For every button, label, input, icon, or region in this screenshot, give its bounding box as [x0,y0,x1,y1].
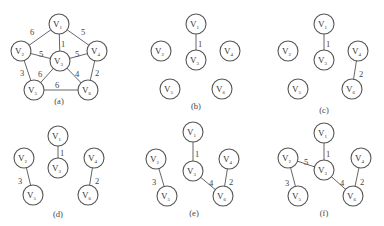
node-v2: V2 [151,41,171,61]
kruskal-mst-figure: 6515536426V1V2V3V4V5V6(a)1V1V2V3V4V5V6(b… [0,0,384,226]
edge-weight-label: 6 [55,80,59,90]
edge-weight-label: 5 [304,157,308,167]
edge-weight-label: 4 [340,178,345,188]
edge-weight-label: 1 [326,149,330,159]
node-v2: V2 [278,41,298,61]
node-v6: V6 [342,79,362,99]
node-v6: V6 [78,80,98,100]
edge-weight-label: 3 [285,178,289,188]
node-v3: V3 [50,51,70,71]
edge-weight-label: 1 [326,39,330,49]
node-v6: V6 [78,185,98,205]
panel-d: 132V1V2V3V4V5V6(d) [14,126,104,219]
panel-caption: (d) [53,209,63,219]
node-v5: V5 [288,79,308,99]
edge-weight-label: 5 [75,49,79,59]
edge-weight-label: 3 [152,177,156,187]
edge-weight-label: 4 [75,69,80,79]
node-v3: V3 [314,50,334,70]
panel-caption: (c) [319,105,329,115]
edge-weight-label: 6 [30,27,34,37]
node-v4: V4 [348,41,368,61]
node-v3: V3 [183,161,203,181]
edge-weight-label: 1 [195,149,199,159]
panel-caption: (e) [189,208,199,218]
node-v4: V4 [220,41,240,61]
panel-caption: (b) [191,101,201,111]
node-v4: V4 [87,41,107,61]
node-v2: V2 [146,149,166,169]
edge-weight-label: 2 [360,177,364,187]
node-v1: V1 [48,126,68,146]
edge-weight-label: 1 [60,148,64,158]
node-v5: V5 [24,80,44,100]
panel-caption: (a) [54,96,64,106]
node-v1: V1 [314,14,334,34]
panel-caption: (f) [320,208,329,218]
edge-weight-label: 2 [95,176,99,186]
node-v3: V3 [186,50,206,70]
node-v6: V6 [212,79,232,99]
edge-weight-label: 3 [20,68,24,78]
panel-a: 6515536426V1V2V3V4V5V6(a) [11,14,107,106]
edge-weight-label: 4 [209,178,214,188]
edge-weight-label: 2 [95,68,99,78]
node-v6: V6 [343,186,363,206]
node-v1: V1 [49,14,69,34]
panel-b: 1V1V2V3V4V5V6(b) [151,14,240,111]
edge-weight-label: 5 [39,49,43,59]
node-v4: V4 [351,148,371,168]
node-v2: V2 [14,148,34,168]
node-v1: V1 [314,123,334,143]
node-v4: V4 [219,149,239,169]
node-v5: V5 [160,79,180,99]
edge-weight-label: 1 [61,39,65,49]
node-v1: V1 [186,14,206,34]
node-v5: V5 [288,186,308,206]
node-v6: V6 [213,186,233,206]
edge-weight-label: 2 [229,177,233,187]
edge-weight-label: 1 [198,39,202,49]
node-v3: V3 [48,158,68,178]
panel-f: 15342V1V2V3V4V5V6(f) [278,123,371,218]
node-v3: V3 [314,160,334,180]
edge-weight-label: 2 [359,69,363,79]
edge-weight-label: 6 [38,69,42,79]
panel-e: 1342V1V2V3V4V5V6(e) [146,122,239,218]
node-v5: V5 [157,186,177,206]
node-v5: V5 [23,185,43,205]
panel-c: 12V1V2V3V4V5V6(c) [278,14,368,115]
edge-weight-label: 5 [81,27,85,37]
node-v1: V1 [183,122,203,142]
node-v2: V2 [11,41,31,61]
node-v4: V4 [84,148,104,168]
edge-weight-label: 3 [18,176,22,186]
node-v2: V2 [278,148,298,168]
